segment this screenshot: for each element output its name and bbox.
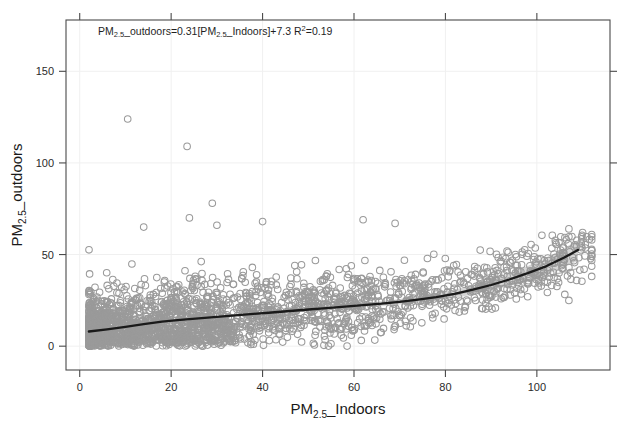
x-tick-label: 40 — [256, 381, 268, 393]
y-tick-label: 100 — [36, 157, 54, 169]
x-tick-label: 80 — [439, 381, 451, 393]
x-tick-label: 100 — [528, 381, 546, 393]
scatter-plot-figure: 020406080100050100150 PM2.5_outdoors=0.3… — [0, 0, 626, 431]
y-tick-label: 50 — [42, 249, 54, 261]
figure-background — [0, 0, 626, 431]
y-tick-label: 150 — [36, 65, 54, 77]
x-tick-label: 0 — [77, 381, 83, 393]
y-tick-label: 0 — [48, 340, 54, 352]
x-tick-label: 60 — [348, 381, 360, 393]
x-tick-label: 20 — [165, 381, 177, 393]
